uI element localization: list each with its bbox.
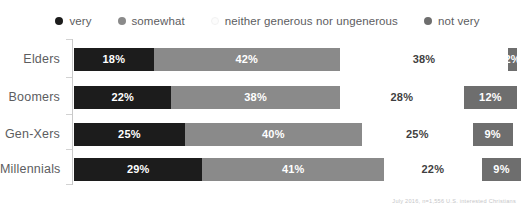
bar-row: Gen-Xers25%40%25%9%: [0, 115, 527, 153]
chart-footnote: July 2016, n=1,556 U.S. interested Chris…: [392, 198, 516, 204]
category-label-millennials: Millennials: [0, 162, 66, 176]
legend-item-somewhat[interactable]: somewhat: [118, 15, 185, 27]
bar-value-label: 29%: [127, 163, 150, 175]
bar-row: Boomers22%38%28%12%: [0, 78, 527, 116]
axis-tick: [66, 184, 72, 185]
bar-segment: 22%: [74, 86, 171, 109]
bar-value-label: 22%: [111, 91, 134, 103]
bar-value-label: 42%: [235, 53, 258, 65]
legend-label-neither: neither generous nor ungenerous: [225, 15, 398, 27]
bar-value-label: 25%: [406, 128, 429, 140]
bar-value-label: 38%: [413, 53, 436, 65]
bar-track: 18%42%38%2%: [74, 48, 517, 71]
bar-rows: Elders18%42%38%2%Boomers22%38%28%12%Gen-…: [0, 36, 527, 188]
legend-item-neither[interactable]: neither generous nor ungenerous: [211, 15, 398, 27]
bar-segment: 12%: [464, 86, 517, 109]
bar-segment: 41%: [202, 158, 384, 181]
bar-segment: 22%: [384, 158, 481, 181]
legend-label-not-very: not very: [438, 15, 480, 27]
bar-value-label: 12%: [479, 91, 502, 103]
bar-value-label: 38%: [244, 91, 267, 103]
bar-track: 29%41%22%9%: [74, 158, 517, 181]
bar-row: Elders18%42%38%2%: [0, 40, 527, 78]
bar-value-label: 9%: [493, 163, 509, 175]
axis-tick: [66, 149, 72, 150]
category-label-elders: Elders: [0, 52, 66, 66]
bar-value-label: 2%: [508, 53, 517, 65]
plot-area: Elders18%42%38%2%Boomers22%38%28%12%Gen-…: [0, 36, 527, 188]
bar-value-label: 40%: [262, 128, 285, 140]
bar-value-label: 22%: [422, 163, 445, 175]
bar-segment: 29%: [74, 158, 202, 181]
stacked-bar-chart: very somewhat neither generous nor ungen…: [0, 0, 527, 208]
bar-track: 25%40%25%9%: [74, 123, 517, 146]
legend-label-somewhat: somewhat: [132, 15, 185, 27]
bar-segment: 28%: [340, 86, 464, 109]
chart-legend: very somewhat neither generous nor ungen…: [0, 11, 527, 31]
bar-segment: 25%: [74, 123, 185, 146]
bar-segment: 18%: [74, 48, 154, 71]
axis-tick: [66, 114, 72, 115]
category-label-boomers: Boomers: [0, 90, 66, 104]
bar-segment: 40%: [185, 123, 362, 146]
axis-tick: [66, 39, 72, 40]
legend-item-not-very[interactable]: not very: [424, 15, 480, 27]
bar-value-label: 25%: [118, 128, 141, 140]
bar-value-label: 41%: [282, 163, 305, 175]
bar-value-label: 28%: [391, 91, 414, 103]
bar-segment: 38%: [340, 48, 508, 71]
legend-item-very[interactable]: very: [55, 15, 91, 27]
bar-row: Millennials29%41%22%9%: [0, 150, 527, 188]
legend-swatch-not-very-icon: [424, 17, 432, 25]
bar-track: 22%38%28%12%: [74, 86, 517, 109]
bar-segment: 9%: [482, 158, 522, 181]
axis-tick: [66, 77, 72, 78]
bar-segment: 2%: [508, 48, 517, 71]
legend-swatch-neither-icon: [211, 17, 219, 25]
legend-label-very: very: [69, 15, 91, 27]
bar-segment: 42%: [154, 48, 340, 71]
legend-swatch-somewhat-icon: [118, 17, 126, 25]
bar-segment: 38%: [171, 86, 339, 109]
bar-segment: 25%: [362, 123, 473, 146]
bar-segment: 9%: [473, 123, 513, 146]
category-label-gen-xers: Gen-Xers: [0, 127, 66, 141]
bar-value-label: 9%: [484, 128, 500, 140]
bar-value-label: 18%: [103, 53, 126, 65]
legend-swatch-very-icon: [55, 17, 63, 25]
